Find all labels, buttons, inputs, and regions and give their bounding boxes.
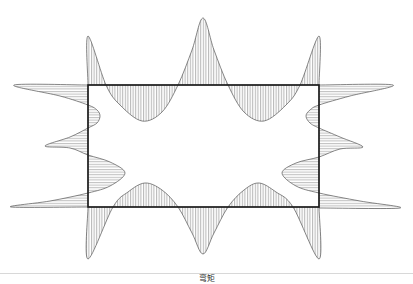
bottom-beam-moment-curve	[86, 183, 321, 259]
top-beam-moment-curve	[87, 18, 321, 121]
bending-moment-diagram	[0, 0, 413, 270]
left-column-moment-curve	[10, 84, 125, 207]
diagram-caption: 弯矩	[0, 274, 413, 284]
right-column-moment-curve	[282, 84, 401, 208]
